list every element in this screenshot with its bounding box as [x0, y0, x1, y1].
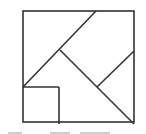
- tangram-diagram: [0, 0, 146, 134]
- right-short-diagonal: [97, 51, 134, 87]
- dissection-lines: [23, 11, 134, 124]
